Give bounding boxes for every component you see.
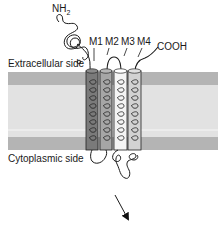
- label-m2: M2: [105, 36, 119, 47]
- n-terminus-label: NH2: [52, 3, 70, 16]
- membrane-topology-diagram: NH2 M1 M2 M3 M4 COOH Extracellular side …: [0, 0, 222, 233]
- loop-m1-m2: [91, 150, 107, 163]
- m2-pointer: [107, 48, 109, 55]
- segment-m3: [114, 69, 127, 150]
- m4-pointer: [138, 48, 142, 57]
- segment-m1: [86, 69, 98, 150]
- segment-m2: [100, 69, 112, 150]
- label-m1: M1: [89, 36, 103, 47]
- loop-m3-m4-large: [113, 150, 138, 178]
- label-m3: M3: [121, 36, 135, 47]
- n-terminal-chain: [57, 15, 89, 60]
- extracellular-label: Extracellular side: [8, 58, 85, 69]
- lipid-bilayer: [8, 72, 218, 150]
- membrane-core: [8, 85, 218, 137]
- c-terminal-tail: [135, 47, 158, 72]
- membrane-inner-leaflet: [8, 137, 218, 150]
- c-terminus-label: COOH: [157, 41, 187, 52]
- label-m4: M4: [137, 36, 151, 47]
- m3-pointer: [124, 48, 127, 56]
- cytoplasmic-label: Cytoplasmic side: [8, 153, 84, 164]
- segment-m4: [128, 69, 141, 150]
- membrane-outer-leaflet: [8, 72, 218, 85]
- down-arrow-icon: [115, 195, 128, 219]
